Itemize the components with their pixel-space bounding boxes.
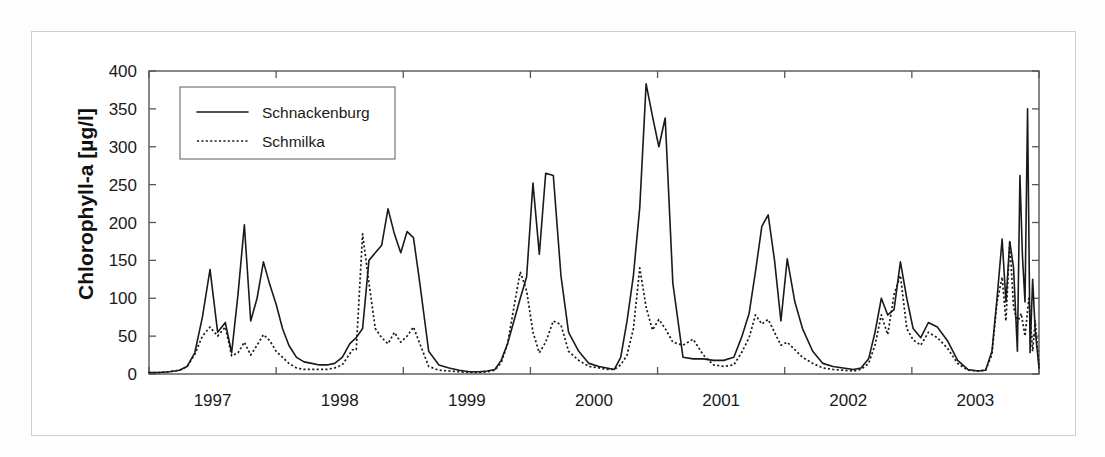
series-line-schmilka bbox=[149, 234, 1039, 373]
y-tick-label: 100 bbox=[109, 289, 137, 308]
chart-plot-area: 050100150200250300350400 199719981999200… bbox=[32, 32, 1077, 437]
x-tick-label: 1999 bbox=[448, 391, 486, 410]
x-tick-label: 2003 bbox=[957, 391, 995, 410]
x-tick-label: 2002 bbox=[829, 391, 867, 410]
legend-label-schnackenburg: Schnackenburg bbox=[262, 104, 370, 121]
legend-label-schmilka: Schmilka bbox=[262, 133, 325, 150]
y-tick-label: 400 bbox=[109, 62, 137, 81]
x-tick-label: 1997 bbox=[194, 391, 232, 410]
chart-legend: SchnackenburgSchmilka bbox=[180, 87, 395, 159]
y-tick-label: 50 bbox=[118, 327, 137, 346]
y-axis-tick-labels: 050100150200250300350400 bbox=[109, 62, 137, 384]
x-tick-label: 2001 bbox=[702, 391, 740, 410]
y-tick-label: 200 bbox=[109, 214, 137, 233]
y-tick-label: 150 bbox=[109, 251, 137, 270]
y-tick-label: 250 bbox=[109, 176, 137, 195]
x-axis-tick-labels: 1997199819992000200120022003 bbox=[194, 391, 995, 410]
x-tick-label: 2000 bbox=[575, 391, 613, 410]
figure-outer-frame: Chlorophyll-a [µg/l] 0501001502002503003… bbox=[31, 31, 1076, 436]
y-tick-label: 350 bbox=[109, 100, 137, 119]
figure-canvas: Chlorophyll-a [µg/l] 0501001502002503003… bbox=[0, 0, 1105, 457]
x-tick-label: 1998 bbox=[321, 391, 359, 410]
y-tick-label: 300 bbox=[109, 138, 137, 157]
y-tick-label: 0 bbox=[128, 365, 137, 384]
